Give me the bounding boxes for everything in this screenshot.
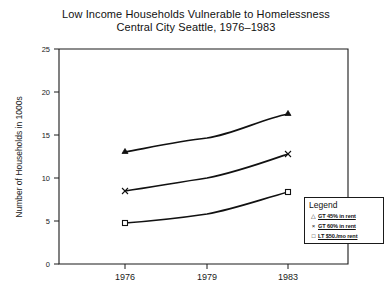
y-axis-tick-labels: 25 20 15 10 5 0 xyxy=(42,45,50,269)
y-tick-label-10: 10 xyxy=(42,174,50,183)
marker-square-1976 xyxy=(123,221,128,226)
series-gt-45-in-rent xyxy=(122,111,291,154)
triangle-icon: △ xyxy=(309,211,318,221)
chart-title-block: Low Income Households Vulnerable to Home… xyxy=(0,8,392,34)
marker-triangle-1983 xyxy=(285,111,291,116)
y-tick-label-0: 0 xyxy=(46,260,50,269)
y-axis-ticks xyxy=(54,49,59,264)
series-gt-60-in-rent xyxy=(122,151,291,194)
series-line-2 xyxy=(125,154,288,191)
x-tick-label-1976: 1976 xyxy=(115,272,135,282)
legend-item-gt-60-in-rent: × GT 60% in rent xyxy=(309,221,380,231)
chart-figure: Low Income Households Vulnerable to Home… xyxy=(0,0,392,289)
x-tick-label-1983: 1983 xyxy=(278,272,298,282)
y-tick-label-25: 25 xyxy=(42,45,50,54)
chart-subtitle: Central City Seattle, 1976–1983 xyxy=(0,21,392,34)
legend-item-lt-50-mo-rent: □ LT $50./mo rent xyxy=(309,231,380,241)
chart-canvas: 25 20 15 10 5 0 1976 1979 1983 Number of… xyxy=(0,0,392,289)
series-lt-50-mo-rent xyxy=(123,190,291,226)
legend-label-gt-60-in-rent: GT 60% in rent xyxy=(318,221,356,231)
series-line-1 xyxy=(125,114,288,152)
y-tick-label-15: 15 xyxy=(42,131,50,140)
legend-label-lt-50-mo-rent: LT $50./mo rent xyxy=(318,231,357,241)
y-axis-label: Number of Households in 1000s xyxy=(14,96,24,217)
page-title: Low Income Households Vulnerable to Home… xyxy=(0,8,392,21)
cross-icon: × xyxy=(309,221,318,231)
y-tick-label-20: 20 xyxy=(42,88,50,97)
series-line-3 xyxy=(125,192,288,223)
legend: Legend △ GT 45% in rent × GT 60% in rent… xyxy=(304,197,384,244)
legend-label-gt-45-in-rent: GT 45% in rent xyxy=(318,211,356,221)
x-tick-label-1979: 1979 xyxy=(197,272,217,282)
y-tick-label-5: 5 xyxy=(46,217,50,226)
x-axis-tick-labels: 1976 1979 1983 xyxy=(115,272,298,282)
square-icon: □ xyxy=(309,231,318,241)
marker-square-1983 xyxy=(286,190,291,195)
legend-title: Legend xyxy=(309,200,380,210)
legend-item-gt-45-in-rent: △ GT 45% in rent xyxy=(309,211,380,221)
x-axis-ticks xyxy=(125,264,288,269)
